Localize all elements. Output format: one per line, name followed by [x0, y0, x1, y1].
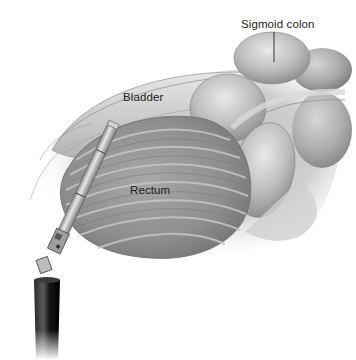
label-sigmoid-colon: Sigmoid colon: [241, 18, 315, 30]
anatomy-illustration: Sigmoid colon Bladder Rectum: [0, 0, 356, 360]
label-bladder: Bladder: [123, 91, 163, 103]
illustration-canvas: [0, 0, 356, 360]
label-rectum: Rectum: [130, 184, 170, 196]
